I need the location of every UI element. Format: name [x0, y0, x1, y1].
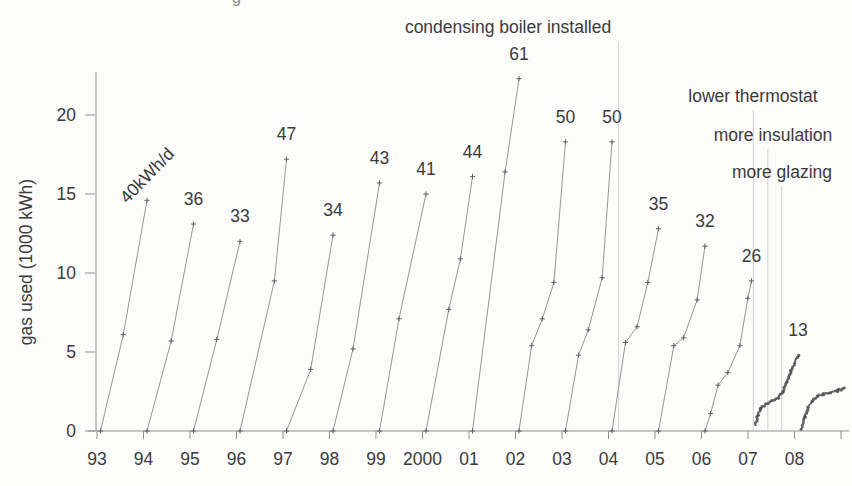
curve-2006: [705, 281, 752, 431]
x-tick-label-96: 96: [227, 449, 246, 469]
curve-1997: [287, 235, 334, 431]
x-tick-label-99: 99: [366, 449, 385, 469]
x-tick-label-02: 02: [506, 449, 525, 469]
reading-marker: [656, 226, 661, 231]
meter-reading-dot: [829, 391, 831, 393]
year-rate-label-2006: 26: [742, 246, 761, 266]
book-figure-page: g 05101520939495969798992000010203040506…: [0, 0, 852, 486]
meter-reading-dot: [808, 404, 810, 406]
reading-marker: [284, 157, 289, 162]
reading-marker: [308, 367, 313, 372]
x-tick-label-04: 04: [599, 449, 619, 469]
event-label-2: more insulation: [714, 125, 833, 145]
year-rate-label-1993: 40kWh/d: [116, 144, 178, 208]
year-rate-label-1994: 36: [184, 189, 203, 209]
x-tick-label-95: 95: [180, 449, 199, 469]
event-label-3: more glazing: [732, 162, 832, 182]
reading-marker: [446, 307, 451, 312]
reading-marker: [694, 297, 699, 302]
x-tick-label-08: 08: [785, 449, 804, 469]
event-label-0: condensing boiler installed: [405, 17, 611, 37]
reading-marker: [237, 428, 242, 433]
meter-reading-dot: [793, 362, 795, 364]
y-tick-label: 0: [66, 421, 76, 441]
reading-marker: [144, 198, 149, 203]
year-rate-label-2005: 32: [695, 211, 714, 231]
reading-marker: [551, 280, 556, 285]
x-tick-label-97: 97: [273, 449, 292, 469]
reading-marker: [330, 232, 335, 237]
meter-reading-dot: [771, 400, 773, 402]
reading-marker: [470, 174, 475, 179]
reading-marker: [396, 316, 401, 321]
reading-marker: [284, 428, 289, 433]
curve-1998: [333, 183, 380, 431]
reading-marker: [609, 139, 614, 144]
y-tick-label: 20: [57, 105, 77, 125]
meter-reading-dot: [794, 360, 796, 362]
reading-marker: [237, 239, 242, 244]
curve-2000: [426, 177, 473, 431]
year-rate-label-2003: 50: [602, 107, 622, 127]
year-rate-label-1996: 47: [277, 124, 296, 144]
curve-2005: [659, 246, 706, 431]
x-tick-label-03: 03: [552, 449, 571, 469]
y-tick-label: 5: [66, 342, 76, 362]
x-tick-label-94: 94: [134, 449, 154, 469]
reading-marker: [516, 76, 521, 81]
x-tick-label-06: 06: [692, 449, 711, 469]
reading-marker: [502, 169, 507, 174]
reading-marker: [272, 278, 277, 283]
year-rate-label-2002: 50: [556, 107, 576, 127]
scan-artifact: g: [232, 0, 241, 6]
y-tick-label: 10: [57, 263, 77, 283]
reading-marker: [645, 280, 650, 285]
reading-marker: [330, 428, 335, 433]
reading-marker: [576, 353, 581, 358]
reading-marker: [563, 428, 568, 433]
meter-reading-dot: [807, 406, 810, 409]
meter-reading-dot: [843, 387, 846, 390]
reading-marker: [377, 428, 382, 433]
meter-reading-dot: [832, 390, 834, 392]
x-tick-label-01: 01: [459, 449, 478, 469]
curve-2003: [566, 142, 613, 431]
curve-1995: [194, 241, 241, 431]
reading-marker: [516, 428, 521, 433]
year-rate-label-2001: 61: [509, 44, 528, 64]
reading-marker: [609, 428, 614, 433]
reading-marker: [350, 346, 355, 351]
reading-marker: [144, 428, 149, 433]
reading-marker: [529, 343, 534, 348]
reading-marker: [702, 428, 707, 433]
meter-reading-dot: [777, 397, 780, 400]
reading-marker: [563, 139, 568, 144]
reading-marker: [377, 180, 382, 185]
event-label-1: lower thermostat: [688, 86, 817, 106]
x-tick-label-05: 05: [645, 449, 664, 469]
curve-1999: [380, 194, 427, 431]
year-rate-label-2000: 44: [463, 142, 483, 162]
reading-marker: [191, 428, 196, 433]
meter-reading-dot: [757, 414, 760, 417]
reading-marker: [540, 316, 545, 321]
x-tick-label-07: 07: [738, 449, 757, 469]
year-rate-label-1995: 33: [230, 206, 249, 226]
reading-marker: [214, 337, 219, 342]
curve-1993: [101, 200, 148, 431]
reading-marker: [98, 428, 103, 433]
y-tick-label: 15: [57, 184, 76, 204]
year-rate-label-1999: 41: [416, 159, 435, 179]
curve-1994: [147, 224, 194, 431]
reading-marker: [121, 332, 126, 337]
reading-marker: [600, 275, 605, 280]
year-rate-label-2004: 35: [649, 194, 668, 214]
reading-marker: [586, 327, 591, 332]
reading-marker: [470, 428, 475, 433]
reading-marker: [423, 428, 428, 433]
x-tick-label-93: 93: [87, 449, 106, 469]
x-tick-label-98: 98: [320, 449, 339, 469]
reading-marker: [423, 191, 428, 196]
curve-1996: [240, 159, 287, 431]
curve-2002: [519, 142, 566, 431]
